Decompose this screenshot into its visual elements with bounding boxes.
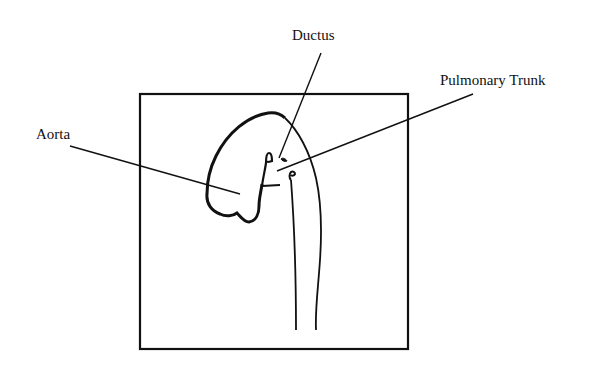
frame-box <box>140 94 408 349</box>
label-aorta: Aorta <box>36 127 70 142</box>
pulmonary-loop <box>290 172 296 180</box>
aorta-leader-line <box>70 146 240 194</box>
label-ductus: Ductus <box>292 28 335 43</box>
ductus-opening-mark <box>281 158 287 161</box>
pulmonary-trunk-leader-line <box>277 94 473 171</box>
descending-inner-line <box>291 180 296 330</box>
aorta-inner-wall <box>262 153 272 186</box>
aorta-stub <box>262 185 280 186</box>
label-pulmonary-trunk: Pulmonary Trunk <box>440 73 545 88</box>
descending-outer-line <box>285 118 321 330</box>
heart-vessels-diagram: Ductus Pulmonary Trunk Aorta <box>0 0 610 365</box>
ductus-leader-line <box>279 53 321 158</box>
aorta-outline <box>207 113 285 222</box>
diagram-drawing <box>0 0 610 365</box>
